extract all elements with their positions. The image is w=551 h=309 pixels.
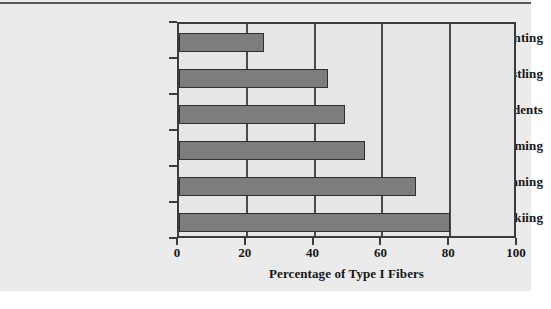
chart-screenshot: SprintingWrestlingTrained StudentsSwimmi… (0, 0, 551, 309)
bar-fill (179, 33, 264, 52)
bar-fill (179, 141, 365, 160)
category-tick (169, 57, 177, 59)
bar (179, 213, 450, 232)
value-tick-label-0: 0 (174, 245, 181, 261)
value-tick-label-100: 100 (506, 245, 526, 261)
gridline-80 (449, 24, 451, 236)
category-tick (169, 201, 177, 203)
value-tick-100 (515, 238, 517, 245)
bar (179, 69, 328, 88)
gridline-40 (314, 24, 316, 236)
bar-fill (179, 69, 328, 88)
value-tick-label-40: 40 (306, 245, 319, 261)
bar (179, 177, 416, 196)
x-axis-title: Percentage of Type I Fibers (177, 266, 516, 282)
category-tick (169, 21, 177, 23)
value-tick-0 (176, 238, 178, 245)
gridline-20 (246, 24, 248, 236)
bar (179, 141, 365, 160)
bar (179, 33, 264, 52)
top-horizontal-rule (0, 2, 531, 4)
category-tick (169, 93, 177, 95)
bar-fill (179, 213, 450, 232)
value-tick-label-60: 60 (374, 245, 387, 261)
category-tick (169, 165, 177, 167)
bar-fill (179, 105, 345, 124)
value-tick-20 (244, 238, 246, 245)
category-tick (169, 129, 177, 131)
value-tick-label-20: 20 (238, 245, 251, 261)
plot-area (177, 22, 516, 238)
gridline-60 (381, 24, 383, 236)
bar (179, 105, 345, 124)
value-tick-label-80: 80 (442, 245, 455, 261)
value-tick-60 (379, 238, 381, 245)
value-tick-80 (447, 238, 449, 245)
value-tick-40 (312, 238, 314, 245)
bar-fill (179, 177, 416, 196)
